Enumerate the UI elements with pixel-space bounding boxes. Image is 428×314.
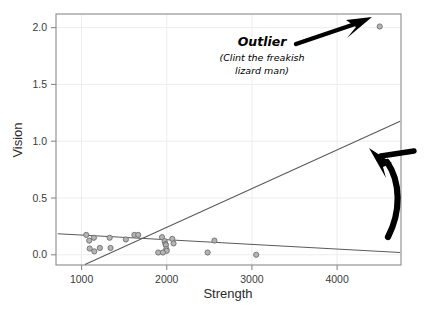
data-point xyxy=(97,245,102,250)
data-point xyxy=(84,232,89,237)
x-tick-label: 3000 xyxy=(240,273,264,285)
data-point xyxy=(254,252,259,257)
y-axis-title: Vision xyxy=(10,122,25,157)
x-tick-label: 1000 xyxy=(70,273,94,285)
data-point xyxy=(136,232,141,237)
y-tick-label: 1.0 xyxy=(32,135,47,147)
outlier-annotation-line2: (Clint the freakish xyxy=(219,52,304,63)
y-axis-ticks: 0.00.51.01.52.0 xyxy=(32,21,56,260)
outlier-annotation-title: Outlier xyxy=(238,34,288,49)
regression-with-outlier xyxy=(85,121,400,264)
data-point xyxy=(92,249,97,254)
trend-line-arrow-icon xyxy=(369,148,414,237)
x-axis-title: Strength xyxy=(203,286,252,301)
x-tick-label: 4000 xyxy=(325,273,349,285)
data-point xyxy=(91,235,96,240)
x-tick-label: 2000 xyxy=(155,273,179,285)
scatter-plot-figure: 1000200030004000 0.00.51.01.52.0 Strengt… xyxy=(0,0,428,314)
data-point xyxy=(377,24,382,29)
data-point xyxy=(171,241,176,246)
regression-lines xyxy=(58,121,400,264)
data-point xyxy=(107,235,112,240)
x-axis-ticks: 1000200030004000 xyxy=(70,265,349,285)
outlier-arrow-icon xyxy=(296,17,372,44)
data-point xyxy=(212,238,217,243)
outlier-annotation-line3: lizard man) xyxy=(235,65,289,76)
chart-canvas: 1000200030004000 0.00.51.01.52.0 Strengt… xyxy=(0,0,428,314)
data-point xyxy=(205,250,210,255)
y-tick-label: 0.5 xyxy=(32,192,47,204)
data-point xyxy=(108,245,113,250)
y-tick-label: 2.0 xyxy=(32,21,47,33)
data-point xyxy=(160,250,165,255)
y-tick-label: 1.5 xyxy=(32,78,47,90)
y-tick-label: 0.0 xyxy=(32,248,47,260)
data-point xyxy=(123,237,128,242)
